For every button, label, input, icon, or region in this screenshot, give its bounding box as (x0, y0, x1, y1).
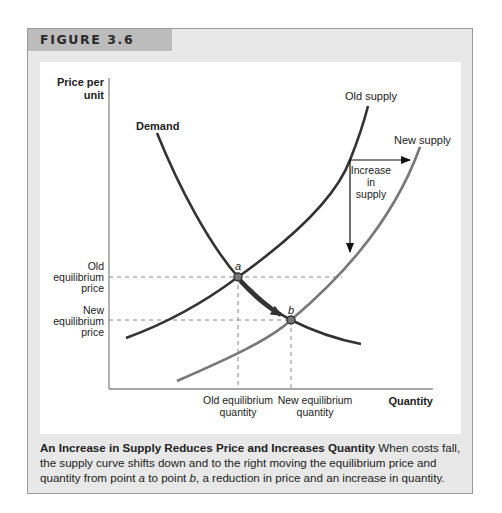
demand-curve (157, 133, 361, 344)
point-b-label: b (288, 304, 294, 316)
increase-label-1: Increase (351, 164, 391, 176)
point-a (234, 273, 242, 281)
increase-label-3: supply (356, 188, 387, 200)
point-b (287, 316, 295, 324)
demand-label: Demand (136, 120, 179, 132)
old-supply-curve (126, 106, 368, 338)
new-supply-curve (177, 147, 420, 381)
new-quantity-label-2: quantity (297, 406, 335, 418)
new-price-label-3: price (81, 326, 104, 338)
old-quantity-label-1: Old equilibrium (203, 394, 273, 406)
new-quantity-label-1: New equilibrium (278, 394, 353, 406)
point-a-label: a (235, 260, 241, 272)
y-axis-label-2: unit (84, 89, 104, 101)
old-supply-label: Old supply (345, 90, 397, 102)
increase-label-2: in (367, 176, 375, 188)
y-axis-label: Price per (57, 76, 105, 88)
x-axis-label: Quantity (388, 395, 433, 407)
old-price-label-3: price (81, 282, 104, 294)
new-supply-label: New supply (394, 134, 451, 146)
old-quantity-label-2: quantity (220, 406, 258, 418)
supply-demand-chart: a b Price per unit Old equilibrium price… (0, 0, 502, 513)
